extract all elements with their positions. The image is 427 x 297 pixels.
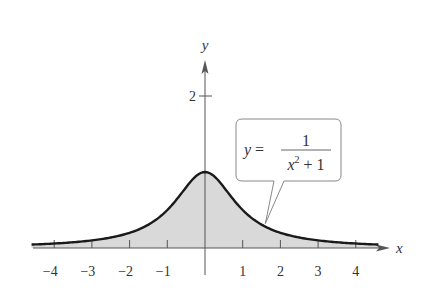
x-tick-label: −2 [118,264,133,279]
denominator-rest: + 1 [300,156,325,173]
y-tick-label: 2 [189,89,196,104]
x-tick-label: 2 [277,264,284,279]
x-tick-label: −1 [156,264,171,279]
equation-denominator: x2 + 1 [286,154,324,173]
x-tick-label: 4 [352,264,359,279]
equation-equals: = [251,141,264,158]
denominator-base: x [286,156,294,173]
x-tick-label: 3 [315,264,322,279]
x-tick-label: 1 [239,264,246,279]
equation-numerator: 1 [302,132,310,149]
x-tick-label: −4 [43,264,58,279]
y-ticks: 2 [189,89,212,104]
x-tick-label: −3 [80,264,95,279]
equation-lhs: y = [242,141,264,159]
chart: −4−3−2−11234 2 x y y = 1 x2 + 1 [0,0,427,297]
y-axis-label: y [200,37,209,53]
x-axis-label: x [395,240,403,256]
equation-callout: y = 1 x2 + 1 [236,119,341,224]
